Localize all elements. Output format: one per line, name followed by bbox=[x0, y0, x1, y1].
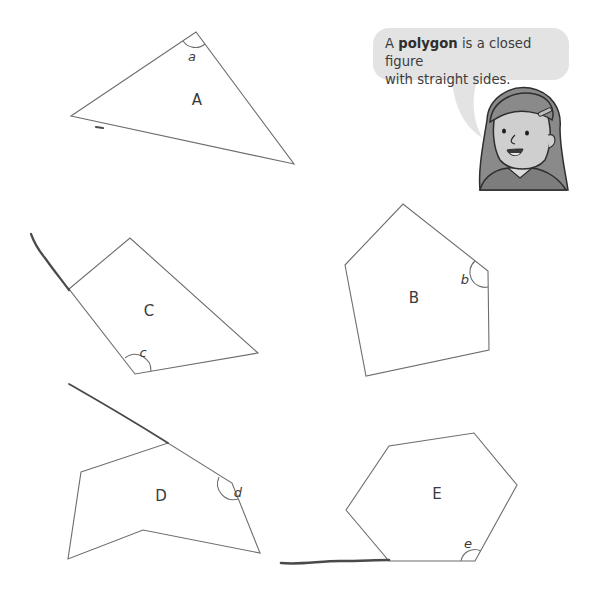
shape-label-e: E bbox=[432, 485, 441, 503]
angle-label-a: a bbox=[188, 49, 196, 64]
worksheet-canvas bbox=[0, 0, 600, 594]
angle-b-arc bbox=[470, 261, 488, 287]
angle-label-d: d bbox=[234, 485, 242, 500]
shape-label-b: B bbox=[409, 289, 419, 307]
speech-bubble-line-1: A polygon is a closed figure bbox=[385, 35, 559, 71]
shape-label-c: C bbox=[144, 302, 154, 320]
shape-label-d: D bbox=[155, 487, 167, 505]
angle-label-e: e bbox=[464, 536, 472, 551]
pencil-mark bbox=[96, 127, 103, 128]
speech-bubble-line-2: with straight sides. bbox=[385, 71, 559, 89]
speech-bubble: A polygon is a closed figure with straig… bbox=[373, 28, 569, 80]
angle-c-arc bbox=[125, 354, 151, 371]
shape-e-hexagon bbox=[281, 433, 517, 564]
angle-a-arc bbox=[183, 41, 205, 48]
shape-a-triangle bbox=[71, 32, 294, 164]
angle-label-c: c bbox=[139, 345, 146, 360]
pencil-line-d bbox=[69, 384, 168, 443]
polygon-term: polygon bbox=[398, 36, 458, 51]
pencil-line-c bbox=[31, 234, 69, 290]
shape-label-a: A bbox=[192, 91, 202, 109]
pencil-line-e bbox=[281, 560, 389, 564]
shape-d-hexagon bbox=[68, 384, 260, 559]
girl-icon bbox=[480, 88, 568, 190]
angle-label-b: b bbox=[461, 272, 469, 287]
